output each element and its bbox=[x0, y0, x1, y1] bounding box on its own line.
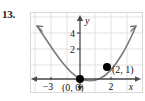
data-point-origin-label: (0, 0) bbox=[62, 82, 84, 93]
x-axis-label: x bbox=[128, 81, 134, 92]
graph-panel: 4 2 −3 2 y x (0, 0) (2, 1) bbox=[30, 12, 143, 93]
coordinate-plane-svg: 4 2 −3 2 y x (0, 0) (2, 1) bbox=[31, 13, 142, 92]
data-point-2-1 bbox=[103, 63, 111, 71]
data-point-2-1-label: (2, 1) bbox=[112, 64, 134, 76]
figure-screenshot: 13. bbox=[0, 0, 145, 101]
y-tick-label-2: 2 bbox=[70, 44, 75, 55]
x-tick-label-2: 2 bbox=[109, 81, 114, 92]
x-tick-label-neg3: −3 bbox=[43, 81, 54, 92]
y-tick-label-4: 4 bbox=[70, 28, 75, 39]
y-axis-label: y bbox=[84, 15, 90, 26]
problem-number-label: 13. bbox=[2, 8, 15, 20]
